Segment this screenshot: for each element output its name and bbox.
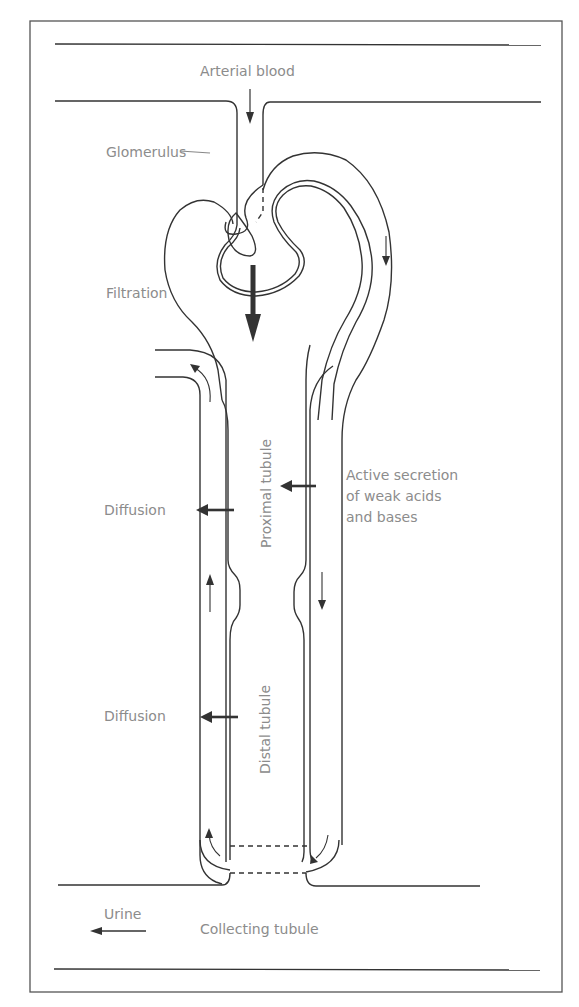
peritubular-left-inner-wall: [155, 377, 222, 884]
flow-direction-arrow-icon: [205, 828, 220, 856]
label-diffusion-upper: Diffusion: [104, 503, 166, 517]
flow-direction-arrow-icon: [310, 835, 328, 864]
collecting-tubule-left-wall: [58, 873, 230, 885]
collecting-tubule-right-wall: [306, 873, 480, 886]
top-boundary-line: [55, 44, 541, 45]
afferent-arteriole-right-wall: [263, 102, 541, 185]
label-proximal-tubule: Proximal tubule: [258, 439, 274, 548]
label-arterial-blood: Arterial blood: [200, 64, 295, 78]
flow-direction-arrow-icon: [382, 236, 390, 266]
nephron-diagram-svg: [0, 0, 579, 1007]
label-active-secretion-line2: of weak acids: [346, 486, 458, 507]
capillary-dashed-link: [256, 188, 263, 222]
thick-arrow-down-icon: [245, 265, 261, 342]
label-filtration: Filtration: [106, 286, 167, 300]
capsule-inner-wall-a: [217, 186, 362, 420]
label-urine: Urine: [104, 907, 141, 921]
label-active-secretion-line1: Active secretion: [346, 465, 458, 486]
proximal-right-inner-wall: [294, 345, 310, 862]
label-diffusion-lower: Diffusion: [104, 709, 166, 723]
label-collecting-tubule: Collecting tubule: [200, 922, 319, 936]
proximal-left-inner-wall: [222, 400, 240, 860]
flow-direction-arrow-icon: [206, 574, 214, 612]
label-distal-tubule: Distal tubule: [257, 685, 273, 774]
bottom-boundary-line: [54, 969, 540, 970]
efferent-loop-outer: [225, 185, 263, 234]
nephron-diagram: [0, 0, 579, 1007]
flow-direction-arrow-icon: [318, 572, 326, 610]
afferent-arteriole-left-wall: [55, 101, 237, 225]
arrow-left-icon: [90, 927, 146, 935]
distal-right-wall: [310, 366, 333, 860]
label-active-secretion: Active secretion of weak acids and bases: [346, 465, 458, 528]
arrow-left-icon: [200, 711, 238, 723]
arrow-down-icon: [246, 89, 254, 124]
label-glomerulus: Glomerulus: [106, 145, 186, 159]
label-active-secretion-line3: and bases: [346, 507, 458, 528]
peritubular-left-outer-wall: [155, 350, 226, 862]
